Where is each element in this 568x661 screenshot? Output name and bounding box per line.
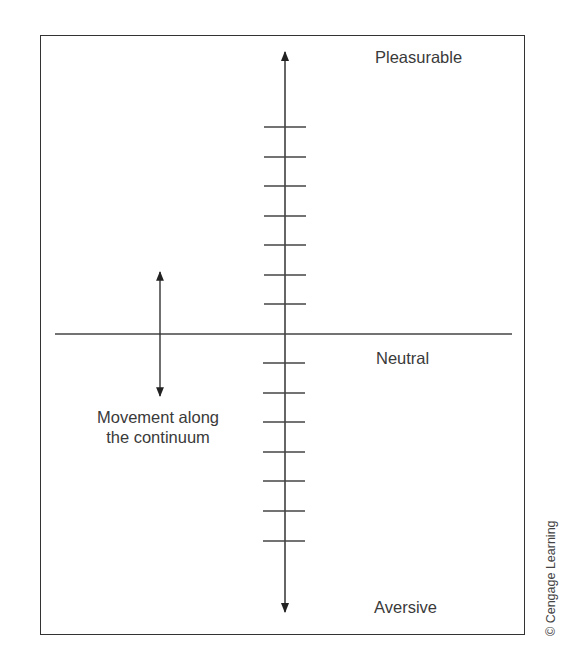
label-movement: Movement along the continuum — [64, 407, 252, 447]
label-neutral: Neutral — [376, 349, 429, 368]
label-pleasurable: Pleasurable — [375, 48, 462, 67]
copyright-credit: © Cengage Learning — [544, 520, 558, 636]
continuum-diagram — [0, 0, 568, 661]
label-movement-line2: the continuum — [64, 427, 252, 447]
label-movement-line1: Movement along — [64, 407, 252, 427]
lower-ticks — [263, 363, 305, 541]
label-aversive: Aversive — [374, 598, 437, 617]
